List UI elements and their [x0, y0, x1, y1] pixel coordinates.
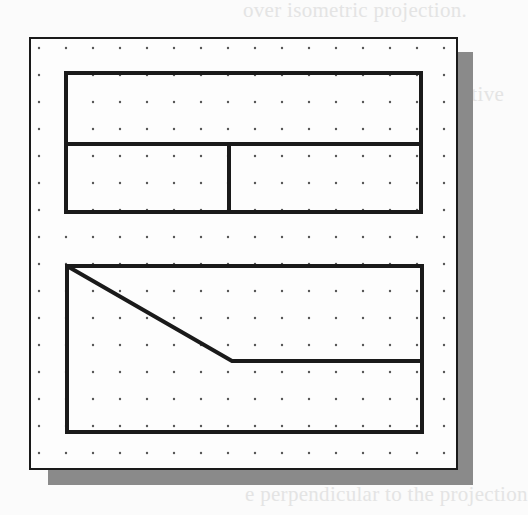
grid-dot — [416, 317, 418, 319]
grid-dot — [146, 101, 148, 103]
grid-dot — [227, 317, 229, 319]
grid-dot — [173, 236, 175, 238]
grid-dot — [308, 290, 310, 292]
grid-dot — [38, 101, 40, 103]
grid-dot — [281, 290, 283, 292]
grid-dot — [281, 344, 283, 346]
grid-dot — [443, 263, 445, 265]
grid-dot — [227, 47, 229, 49]
grid-dot — [362, 155, 364, 157]
grid-dot — [254, 290, 256, 292]
grid-dot — [254, 452, 256, 454]
grid-dot — [389, 398, 391, 400]
grid-dot — [38, 182, 40, 184]
grid-dot — [308, 344, 310, 346]
grid-dot — [416, 344, 418, 346]
grid-dot — [362, 398, 364, 400]
grid-dot — [119, 128, 121, 130]
grid-dot — [281, 317, 283, 319]
grid-dot — [389, 425, 391, 427]
grid-dot — [281, 155, 283, 157]
grid-dot — [308, 425, 310, 427]
grid-dot — [200, 47, 202, 49]
grid-dot — [227, 398, 229, 400]
grid-dot — [416, 155, 418, 157]
grid-dot — [65, 452, 67, 454]
grid-dot — [200, 290, 202, 292]
grid-dot — [281, 236, 283, 238]
grid-dot — [227, 344, 229, 346]
grid-dot — [281, 371, 283, 373]
grid-dot — [119, 182, 121, 184]
grid-dot — [335, 452, 337, 454]
grid-dot — [416, 371, 418, 373]
grid-dot — [281, 101, 283, 103]
grid-dot — [119, 452, 121, 454]
grid-dot — [443, 317, 445, 319]
grid-dot — [92, 344, 94, 346]
grid-dot — [389, 101, 391, 103]
grid-dot — [254, 344, 256, 346]
grid-dot — [92, 425, 94, 427]
grid-dot — [38, 425, 40, 427]
grid-dot — [362, 344, 364, 346]
grid-dot — [227, 128, 229, 130]
grid-dot — [200, 101, 202, 103]
grid-dot — [254, 425, 256, 427]
grid-dot — [146, 425, 148, 427]
grid-dot — [254, 155, 256, 157]
grid-dot — [92, 128, 94, 130]
grid-dot — [92, 236, 94, 238]
grid-dot — [173, 425, 175, 427]
grid-dot — [389, 344, 391, 346]
grid-dot — [389, 155, 391, 157]
grid-dot — [443, 155, 445, 157]
grid-dot — [146, 128, 148, 130]
grid-dot — [335, 344, 337, 346]
grid-dot — [416, 425, 418, 427]
grid-dot — [308, 371, 310, 373]
grid-dot — [200, 398, 202, 400]
grid-dot — [92, 155, 94, 157]
grid-dot — [92, 452, 94, 454]
grid-dot — [38, 74, 40, 76]
grid-dot — [173, 452, 175, 454]
grid-dot — [362, 128, 364, 130]
grid-dot — [38, 236, 40, 238]
grid-dot — [146, 47, 148, 49]
grid-dot — [443, 209, 445, 211]
grid-dot — [308, 182, 310, 184]
grid-dot — [335, 317, 337, 319]
grid-dot — [38, 344, 40, 346]
grid-dot — [92, 47, 94, 49]
grid-dot — [443, 182, 445, 184]
grid-dot — [38, 209, 40, 211]
grid-dot — [92, 398, 94, 400]
grid-dot — [227, 371, 229, 373]
grid-dot — [362, 101, 364, 103]
grid-dot — [227, 236, 229, 238]
grid-dot — [146, 452, 148, 454]
grid-dot — [335, 182, 337, 184]
grid-dot — [38, 398, 40, 400]
grid-dot — [335, 47, 337, 49]
grid-dot — [173, 344, 175, 346]
grid-dots — [38, 47, 445, 454]
grid-dot — [254, 182, 256, 184]
grid-dot — [38, 452, 40, 454]
grid-dot — [200, 425, 202, 427]
grid-dot — [200, 155, 202, 157]
grid-dot — [335, 290, 337, 292]
grid-dot — [173, 290, 175, 292]
grid-dot — [146, 344, 148, 346]
grid-dot — [227, 101, 229, 103]
grid-dot — [254, 398, 256, 400]
grid-dot — [416, 128, 418, 130]
grid-dot — [281, 47, 283, 49]
grid-dot — [173, 317, 175, 319]
grid-dot — [173, 155, 175, 157]
grid-dot — [146, 155, 148, 157]
grid-dot — [92, 317, 94, 319]
grid-dot — [227, 290, 229, 292]
grid-dot — [416, 398, 418, 400]
